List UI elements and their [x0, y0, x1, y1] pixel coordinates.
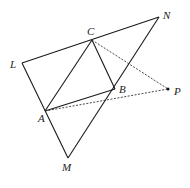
segment-AC: [45, 40, 92, 111]
label-L: L: [9, 58, 16, 70]
segment-LN: [22, 17, 159, 63]
label-M: M: [61, 161, 72, 173]
label-P: P: [173, 85, 181, 97]
segment-CB: [92, 40, 115, 89]
label-B: B: [119, 83, 126, 95]
label-C: C: [87, 25, 95, 37]
segment-NM: [68, 17, 159, 158]
geometry-diagram: L N M C A B P: [0, 0, 190, 188]
label-A: A: [37, 112, 45, 124]
point-labels: L N M C A B P: [9, 9, 181, 173]
dashed-lines: [45, 40, 168, 111]
label-N: N: [162, 9, 171, 21]
solid-lines: [22, 17, 159, 158]
segment-AP: [45, 89, 168, 111]
point-P-dot: [167, 88, 170, 91]
